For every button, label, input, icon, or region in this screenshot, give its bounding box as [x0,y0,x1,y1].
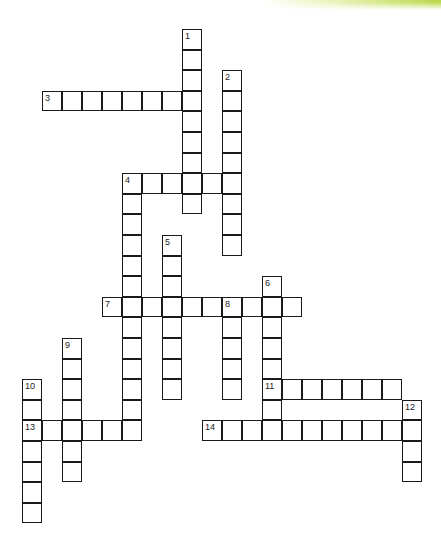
crossword-cell[interactable] [182,70,202,91]
crossword-cell[interactable] [362,420,382,441]
crossword-cell[interactable] [82,91,102,112]
crossword-cell[interactable] [142,297,162,318]
crossword-cell[interactable] [222,173,242,194]
crossword-cell[interactable] [262,420,282,441]
crossword-cell[interactable]: 9 [62,338,82,359]
crossword-cell[interactable] [162,379,182,400]
crossword-cell[interactable] [262,317,282,338]
crossword-cell[interactable]: 4 [122,173,142,194]
crossword-cell[interactable] [122,400,142,421]
crossword-cell[interactable] [242,297,262,318]
crossword-cell[interactable] [182,111,202,132]
crossword-cell[interactable] [122,297,142,318]
crossword-cell[interactable] [22,462,42,483]
crossword-cell[interactable] [282,297,302,318]
crossword-cell[interactable] [222,379,242,400]
crossword-cell[interactable] [62,91,82,112]
crossword-cell[interactable] [242,420,262,441]
crossword-cell[interactable]: 1 [182,29,202,50]
crossword-cell[interactable] [382,379,402,400]
crossword-cell[interactable] [222,153,242,174]
crossword-cell[interactable] [62,441,82,462]
crossword-cell[interactable] [162,338,182,359]
crossword-cell[interactable] [182,194,202,215]
crossword-cell[interactable] [302,420,322,441]
crossword-cell[interactable] [162,173,182,194]
crossword-cell[interactable] [122,359,142,380]
crossword-cell[interactable]: 6 [262,276,282,297]
crossword-cell[interactable] [222,91,242,112]
crossword-cell[interactable] [182,297,202,318]
crossword-cell[interactable] [282,379,302,400]
crossword-cell[interactable]: 2 [222,70,242,91]
crossword-cell[interactable]: 5 [162,235,182,256]
crossword-cell[interactable] [102,91,122,112]
crossword-cell[interactable] [142,173,162,194]
crossword-cell[interactable] [162,359,182,380]
crossword-cell[interactable] [262,359,282,380]
crossword-cell[interactable] [62,359,82,380]
crossword-cell[interactable] [222,132,242,153]
crossword-cell[interactable] [102,420,122,441]
crossword-cell[interactable] [382,420,402,441]
crossword-cell[interactable] [122,317,142,338]
crossword-cell[interactable] [182,91,202,112]
crossword-cell[interactable] [142,91,162,112]
crossword-cell[interactable] [282,420,302,441]
crossword-cell[interactable] [222,111,242,132]
crossword-cell[interactable] [402,462,422,483]
crossword-cell[interactable] [222,317,242,338]
crossword-cell[interactable] [122,235,142,256]
crossword-cell[interactable]: 10 [22,379,42,400]
crossword-cell[interactable] [42,420,62,441]
crossword-cell[interactable] [322,420,342,441]
crossword-cell[interactable] [162,297,182,318]
crossword-cell[interactable]: 8 [222,297,242,318]
crossword-cell[interactable] [182,50,202,71]
crossword-cell[interactable] [122,420,142,441]
crossword-cell[interactable] [182,173,202,194]
crossword-cell[interactable]: 3 [42,91,62,112]
crossword-cell[interactable] [62,420,82,441]
crossword-cell[interactable] [402,441,422,462]
crossword-cell[interactable] [22,441,42,462]
crossword-cell[interactable] [182,153,202,174]
crossword-cell[interactable]: 7 [102,297,122,318]
crossword-cell[interactable] [122,194,142,215]
crossword-cell[interactable] [62,462,82,483]
crossword-cell[interactable] [62,400,82,421]
crossword-cell[interactable] [122,338,142,359]
crossword-cell[interactable] [162,91,182,112]
crossword-cell[interactable] [222,194,242,215]
crossword-cell[interactable] [222,338,242,359]
crossword-cell[interactable] [222,420,242,441]
crossword-cell[interactable] [402,420,422,441]
crossword-cell[interactable] [362,379,382,400]
crossword-cell[interactable] [342,420,362,441]
crossword-cell[interactable] [82,420,102,441]
crossword-cell[interactable] [122,256,142,277]
crossword-cell[interactable] [62,379,82,400]
crossword-cell[interactable] [322,379,342,400]
crossword-cell[interactable] [162,317,182,338]
crossword-cell[interactable] [202,173,222,194]
crossword-cell[interactable] [222,214,242,235]
crossword-cell[interactable]: 12 [402,400,422,421]
crossword-cell[interactable] [222,359,242,380]
crossword-cell[interactable] [262,338,282,359]
crossword-cell[interactable] [122,379,142,400]
crossword-cell[interactable] [262,297,282,318]
crossword-cell[interactable] [302,379,322,400]
crossword-cell[interactable] [22,400,42,421]
crossword-cell[interactable] [162,256,182,277]
crossword-cell[interactable] [202,297,222,318]
crossword-cell[interactable] [342,379,362,400]
crossword-cell[interactable] [22,503,42,524]
crossword-cell[interactable]: 13 [22,420,42,441]
crossword-cell[interactable] [182,132,202,153]
crossword-cell[interactable] [162,276,182,297]
crossword-cell[interactable]: 14 [202,420,222,441]
crossword-cell[interactable] [122,214,142,235]
crossword-cell[interactable] [22,482,42,503]
crossword-cell[interactable]: 11 [262,379,282,400]
